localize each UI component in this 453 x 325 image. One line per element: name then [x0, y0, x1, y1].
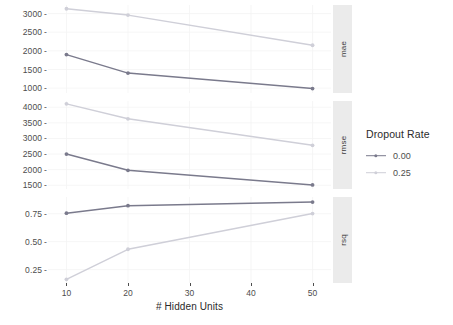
- y-tick-label: 1500-: [23, 65, 47, 75]
- x-tick-label: 40: [246, 288, 256, 298]
- y-axis-rmse: 1500-2000-2500-3000-3500-4000-: [0, 101, 47, 189]
- panel-rmse: [48, 101, 331, 189]
- y-tick-label: 2500-: [23, 149, 47, 159]
- legend-key-icon: [366, 149, 386, 163]
- legend-item-label: 0.25: [393, 168, 411, 178]
- y-tick-label: 3000-: [23, 133, 47, 143]
- x-tick-label: 20: [123, 288, 133, 298]
- panel-rsq: [48, 197, 331, 283]
- facet-strip-label: rmse: [338, 136, 347, 155]
- legend-item-0.25[interactable]: 0.25: [366, 164, 452, 181]
- y-axis-mae: 1000-1500-2000-2500-3000-: [0, 5, 47, 93]
- facet-rsq: 0.25-0.50-0.75-rsq: [0, 197, 353, 283]
- y-tick-label: 1000-: [23, 83, 47, 93]
- y-tick-label: 2000-: [23, 46, 47, 56]
- x-tick-mark: [313, 283, 314, 286]
- facet-mae: 1000-1500-2000-2500-3000-mae: [0, 5, 353, 93]
- y-axis-rsq: 0.25-0.50-0.75-: [0, 197, 47, 283]
- y-tick-label: 3500-: [23, 118, 47, 128]
- y-tick-label: 0.50-: [25, 237, 47, 247]
- x-tick-mark: [128, 283, 129, 286]
- legend-items: 0.000.25: [366, 147, 452, 181]
- y-tick-label: 0.25-: [25, 265, 47, 275]
- x-tick-mark: [190, 283, 191, 286]
- legend-key-icon: [366, 166, 386, 180]
- facet-strip-label: rsq: [338, 234, 347, 246]
- y-tick-label: 3000-: [23, 9, 47, 19]
- chart-root: 1000-1500-2000-2500-3000-mae1500-2000-25…: [0, 0, 453, 325]
- x-tick-label: 10: [62, 288, 72, 298]
- x-axis: 1020304050: [48, 283, 331, 301]
- facet-strip-mae: mae: [333, 5, 352, 93]
- facet-stack: 1000-1500-2000-2500-3000-mae1500-2000-25…: [0, 0, 353, 325]
- x-tick-label: 50: [308, 288, 318, 298]
- x-axis-title: # Hidden Units: [48, 301, 331, 312]
- x-tick-mark: [66, 283, 67, 286]
- facet-strip-label: mae: [338, 41, 347, 57]
- x-tick-label: 30: [185, 288, 195, 298]
- x-tick-mark: [251, 283, 252, 286]
- legend-item-label: 0.00: [393, 151, 411, 161]
- legend-item-0.00[interactable]: 0.00: [366, 147, 452, 164]
- y-tick-label: 2500-: [23, 27, 47, 37]
- legend: Dropout Rate 0.000.25: [366, 128, 452, 181]
- y-tick-label: 2000-: [23, 165, 47, 175]
- facet-rmse: 1500-2000-2500-3000-3500-4000-rmse: [0, 101, 353, 189]
- legend-title: Dropout Rate: [366, 128, 452, 140]
- y-tick-label: 1500-: [23, 180, 47, 190]
- facet-strip-rsq: rsq: [333, 197, 352, 283]
- y-tick-label: 4000-: [23, 102, 47, 112]
- facet-strip-rmse: rmse: [333, 101, 352, 189]
- y-tick-label: 0.75-: [25, 209, 47, 219]
- panel-mae: [48, 5, 331, 93]
